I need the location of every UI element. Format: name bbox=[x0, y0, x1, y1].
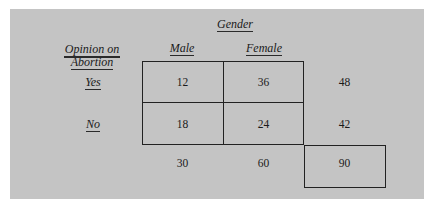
row-group-label-line2: Abortion bbox=[71, 56, 114, 70]
grid-divider-horizontal bbox=[142, 102, 304, 103]
row-total-no: 42 bbox=[304, 117, 385, 131]
row-group-underline-1 bbox=[64, 56, 120, 58]
cell-yes-male: 12 bbox=[142, 75, 223, 89]
cell-no-female: 24 bbox=[223, 117, 304, 131]
column-group-label: Gender bbox=[205, 18, 265, 32]
row-label-no: No bbox=[78, 118, 108, 132]
cell-no-male: 18 bbox=[142, 117, 223, 131]
yes-label: Yes bbox=[85, 76, 101, 90]
column-total-male: 30 bbox=[142, 156, 223, 170]
cell-yes-female: 36 bbox=[223, 75, 304, 89]
no-label: No bbox=[86, 118, 100, 132]
column-header-male: Male bbox=[160, 42, 204, 56]
female-label: Female bbox=[246, 42, 282, 56]
gender-label: Gender bbox=[217, 18, 253, 32]
column-header-female: Female bbox=[237, 42, 291, 56]
column-total-female: 60 bbox=[223, 156, 304, 170]
grand-total: 90 bbox=[304, 156, 385, 170]
row-label-yes: Yes bbox=[78, 76, 108, 90]
male-label: Male bbox=[170, 42, 195, 56]
row-total-yes: 48 bbox=[304, 75, 385, 89]
